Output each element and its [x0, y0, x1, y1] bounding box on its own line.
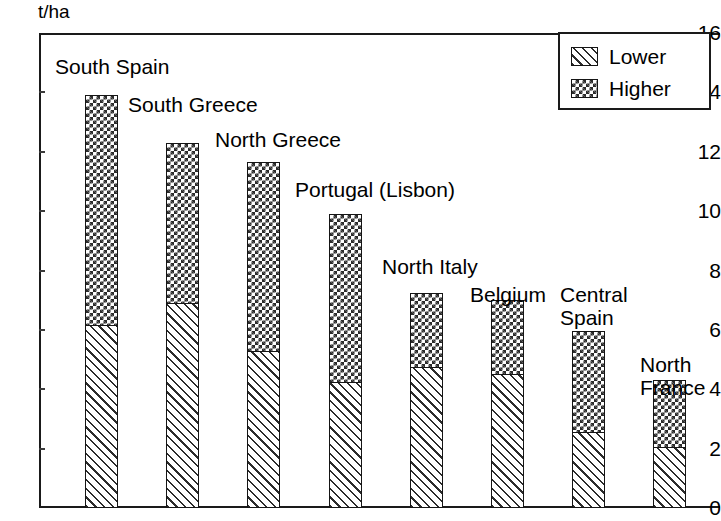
bar-segment-higher	[166, 143, 199, 305]
bar-segment-higher	[491, 300, 524, 376]
bar-segment-higher	[410, 293, 443, 369]
legend-label: Lower	[609, 46, 666, 67]
bar-category-label: Belgium	[470, 283, 546, 306]
bar-belgium	[491, 300, 524, 508]
bar-category-label: South Greece	[128, 93, 258, 116]
bar-category-label: North Italy	[382, 255, 478, 278]
legend-swatch-checkerboard	[571, 79, 598, 98]
bar-south-spain	[85, 95, 118, 508]
legend-item: Higher	[571, 72, 709, 104]
bar-segment-lower	[572, 432, 605, 508]
bar-category-label: North Greece	[215, 128, 341, 151]
bar-segment-higher	[247, 162, 280, 352]
bar-segment-higher	[329, 214, 362, 383]
bar-segment-lower	[329, 382, 362, 508]
legend-label: Higher	[609, 78, 671, 99]
bar-segment-lower	[85, 325, 118, 508]
bar-category-label: North France	[640, 353, 705, 399]
legend-swatch-diagonal-hatch	[571, 47, 598, 66]
bar-portugal-lisbon	[329, 214, 362, 508]
bar-segment-lower	[247, 351, 280, 508]
bar-category-label: Portugal (Lisbon)	[295, 178, 455, 201]
bar-south-greece	[166, 143, 199, 508]
bar-segment-lower	[410, 367, 443, 508]
bar-north-greece	[247, 162, 280, 508]
bar-central-spain	[572, 331, 605, 508]
bar-category-label: South Spain	[55, 55, 169, 78]
bar-segment-higher	[85, 95, 118, 327]
bar-segment-lower	[653, 447, 686, 508]
bar-segment-lower	[491, 374, 524, 508]
legend: LowerHigher	[558, 32, 711, 110]
legend-item: Lower	[571, 40, 709, 72]
bar-north-france	[653, 380, 686, 508]
bar-category-label: Central Spain	[560, 283, 628, 329]
stacked-bar-chart: t/ha 1614121086420 South SpainSouth Gree…	[0, 0, 721, 521]
bar-segment-higher	[572, 331, 605, 433]
bar-north-italy	[410, 293, 443, 508]
bar-segment-lower	[166, 303, 199, 508]
